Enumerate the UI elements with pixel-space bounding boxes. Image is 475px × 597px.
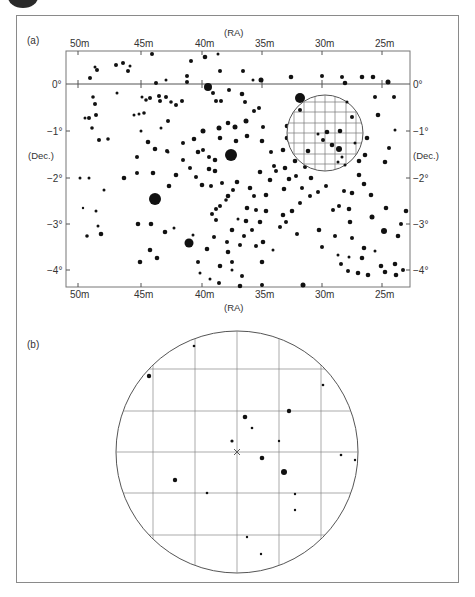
svg-text:−2°: −2° <box>47 173 62 184</box>
enlarged-field-b <box>116 331 358 573</box>
star-chart-figure: (a) (RA) (RA) (Dec.) (Dec.) 50m 45m 40m … <box>0 0 475 597</box>
svg-text:−2°: −2° <box>413 173 428 184</box>
svg-text:−3°: −3° <box>47 219 62 230</box>
svg-text:−1°: −1° <box>413 126 428 137</box>
svg-text:30m: 30m <box>315 38 334 49</box>
panel-b-label: (b) <box>27 339 39 350</box>
svg-text:30m: 30m <box>315 289 334 300</box>
svg-text:35m: 35m <box>255 38 274 49</box>
panel-a-label: (a) <box>27 35 39 46</box>
svg-text:−4°: −4° <box>47 265 62 276</box>
ra-ticks-bottom: 50m 45m 40m 35m 30m 25m <box>70 289 394 300</box>
svg-text:45m: 45m <box>134 289 153 300</box>
svg-text:0°: 0° <box>413 79 423 90</box>
svg-text:−1°: −1° <box>47 126 62 137</box>
svg-text:40m: 40m <box>195 38 214 49</box>
dec-axis-label-right: (Dec.) <box>413 150 439 161</box>
svg-text:35m: 35m <box>255 289 274 300</box>
ra-axis-label-top: (RA) <box>224 27 244 38</box>
inset-reticle-a <box>287 95 363 171</box>
svg-text:25m: 25m <box>375 38 394 49</box>
svg-text:0°: 0° <box>52 79 62 90</box>
dec-axis-label-left: (Dec.) <box>28 150 54 161</box>
dec-ticks-right: 0° −1° −2° −3° −4° <box>413 79 428 276</box>
svg-text:50m: 50m <box>70 38 89 49</box>
svg-text:−4°: −4° <box>413 265 428 276</box>
plot-a-box <box>66 51 410 287</box>
dec-ticks-left: 0° −1° −2° −3° −4° <box>47 79 62 276</box>
svg-text:50m: 50m <box>70 289 89 300</box>
star-field-a <box>79 52 409 288</box>
svg-text:25m: 25m <box>375 289 394 300</box>
svg-text:45m: 45m <box>134 38 153 49</box>
ra-ticks-top: 50m 45m 40m 35m 30m 25m <box>70 38 394 49</box>
svg-text:40m: 40m <box>195 289 214 300</box>
svg-text:−3°: −3° <box>413 219 428 230</box>
ra-tick-marks <box>66 51 410 287</box>
ra-axis-label-bottom: (RA) <box>224 302 244 313</box>
